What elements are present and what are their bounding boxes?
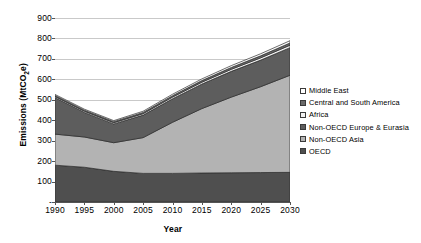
legend-swatch-icon — [300, 148, 306, 154]
y-tick-label: 200 — [6, 156, 52, 166]
x-tick-mark — [261, 202, 262, 205]
legend-item: Non-OECD Europe & Eurasia — [300, 123, 421, 132]
y-tick-label: 300 — [6, 135, 52, 145]
legend-label: Non-OECD Europe & Eurasia — [309, 123, 409, 132]
y-tick-label: 700 — [6, 53, 52, 63]
legend-swatch-icon — [300, 100, 306, 106]
x-tick-label: 2030 — [270, 205, 310, 215]
legend-swatch-icon — [300, 88, 306, 94]
legend-label: Middle East — [309, 86, 349, 95]
y-tick-label: 500 — [6, 94, 52, 104]
x-tick-mark — [143, 202, 144, 205]
legend-item: Middle East — [300, 86, 421, 95]
y-tick-label: 800 — [6, 33, 52, 43]
legend-swatch-icon — [300, 124, 306, 130]
x-tick-mark — [114, 202, 115, 205]
legend-item: Central and South America — [300, 98, 421, 107]
legend-item: OECD — [300, 147, 421, 156]
x-tick-mark — [231, 202, 232, 205]
legend-label: OECD — [309, 147, 331, 156]
x-tick-mark — [55, 202, 56, 205]
legend-item: Non-OECD Asia — [300, 135, 421, 144]
y-tick-label: 400 — [6, 115, 52, 125]
legend-swatch-icon — [300, 136, 306, 142]
legend-label: Central and South America — [309, 98, 400, 107]
y-tick-label: 600 — [6, 74, 52, 84]
stacked-area-series — [55, 18, 290, 202]
emissions-stacked-area-chart: Emissions (MtCO2e) -10020030040050060070… — [0, 0, 421, 243]
x-tick-mark — [173, 202, 174, 205]
legend-label: Non-OECD Asia — [309, 135, 364, 144]
chart-legend: Middle EastCentral and South AmericaAfri… — [300, 86, 421, 159]
x-tick-mark — [202, 202, 203, 205]
plot-area — [55, 18, 290, 202]
legend-label: Africa — [309, 110, 329, 119]
x-tick-mark — [84, 202, 85, 205]
x-axis-title: Year — [55, 224, 291, 234]
y-tick-label: 900 — [6, 13, 52, 23]
x-axis-tick-labels: 199019952000200520102015202020252030 — [0, 205, 421, 221]
legend-item: Africa — [300, 110, 421, 119]
legend-swatch-icon — [300, 112, 306, 118]
y-tick-label: 100 — [6, 176, 52, 186]
x-tick-mark — [290, 202, 291, 205]
